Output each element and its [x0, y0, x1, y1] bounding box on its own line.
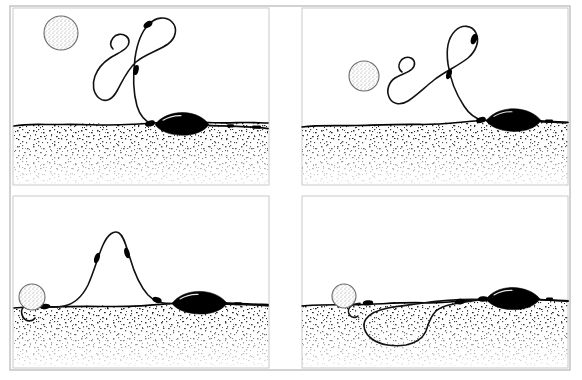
- lakebed-substrate-bottom-left: [10, 298, 272, 368]
- buoyant-bait-top-left: [44, 16, 78, 50]
- buoyant-bait-bottom-left: [19, 284, 45, 310]
- buoyant-bait-top-right: [349, 61, 379, 91]
- figure-canvas: [0, 0, 582, 380]
- line-stop-top-right: [545, 119, 553, 122]
- line-stop-top-left: [252, 126, 261, 129]
- line-stop-bottom-right: [546, 298, 553, 301]
- fishing-rig-figure: Carp rig sequence — buoyant bait on hook…: [0, 0, 582, 380]
- mainline-bottom-right: [540, 300, 568, 301]
- line-clip-top-left: [227, 124, 234, 127]
- lakebed-substrate-top-left: [10, 118, 272, 188]
- buoyant-bait-bottom-right: [332, 284, 356, 308]
- line-stop-bottom-left: [234, 302, 242, 305]
- mainline-top-right: [541, 122, 566, 123]
